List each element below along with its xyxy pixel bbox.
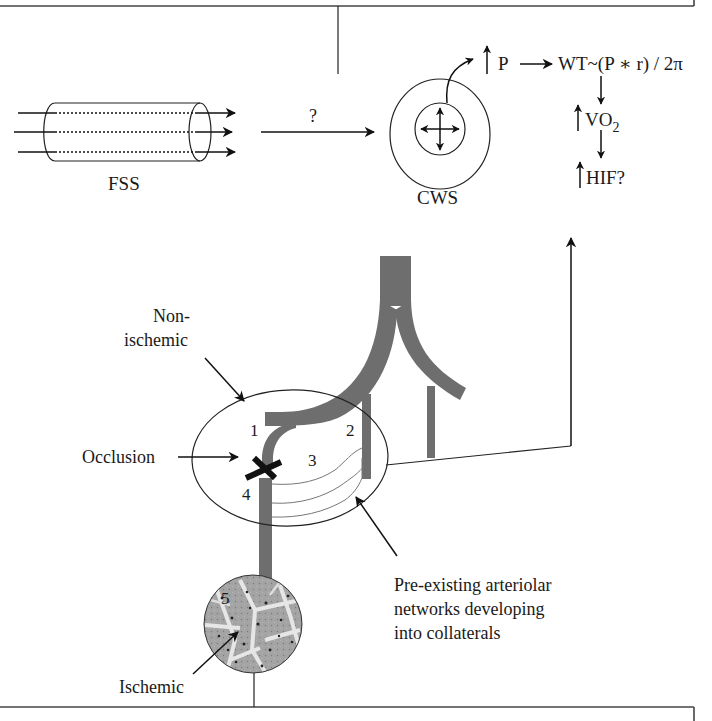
ischemic-label: Ischemic <box>119 677 184 697</box>
vo2-label: VO2 <box>585 109 619 135</box>
non-ischemic-region <box>190 387 391 530</box>
non-ischemic-callout: Non- ischemic <box>124 306 244 401</box>
fss-cylinder: FSS <box>14 103 235 194</box>
site-number-4: 4 <box>242 485 251 504</box>
site-number-3: 3 <box>308 451 317 470</box>
collateral-callout: Pre-existing arteriolar networks develop… <box>356 497 551 643</box>
collateral-caption-line3: into collaterals <box>394 623 500 643</box>
collateral-caption-line2: networks developing <box>394 599 544 619</box>
occlusion-callout: Occlusion <box>82 447 238 467</box>
non-ischemic-label-line2: ischemic <box>124 330 188 350</box>
collateral-development-diagram: FSS ? CWS P WT~(P ∗ r) / 2π VO2 HIF? <box>0 0 712 721</box>
site-number-2: 2 <box>346 421 355 440</box>
hif-label: HIF? <box>586 167 625 188</box>
bottom-bracket <box>0 673 694 721</box>
fss-to-cws-arrow: ? <box>261 106 374 132</box>
ischemic-tissue-histology: 5 <box>204 575 302 680</box>
occlusion-label: Occlusion <box>82 447 155 467</box>
question-mark: ? <box>309 106 317 126</box>
site-number-1: 1 <box>250 421 259 440</box>
cws-label: CWS <box>417 187 458 208</box>
collateral-caption-line1: Pre-existing arteriolar <box>394 575 551 595</box>
non-ischemic-label-line1: Non- <box>153 306 190 326</box>
site-number-5: 5 <box>221 589 230 608</box>
pressure-label: P <box>498 53 509 74</box>
cws-vessel-cross-section: CWS <box>390 59 490 208</box>
arterial-tree <box>259 256 466 581</box>
wall-tension-formula: WT~(P ∗ r) / 2π <box>558 53 683 75</box>
four-way-arrow-icon <box>421 108 459 150</box>
fss-label: FSS <box>108 173 140 194</box>
wall-tension-chain: P WT~(P ∗ r) / 2π VO2 HIF? <box>487 46 683 188</box>
curved-arrow-icon <box>447 59 473 103</box>
collateral-arterioles <box>272 448 364 517</box>
